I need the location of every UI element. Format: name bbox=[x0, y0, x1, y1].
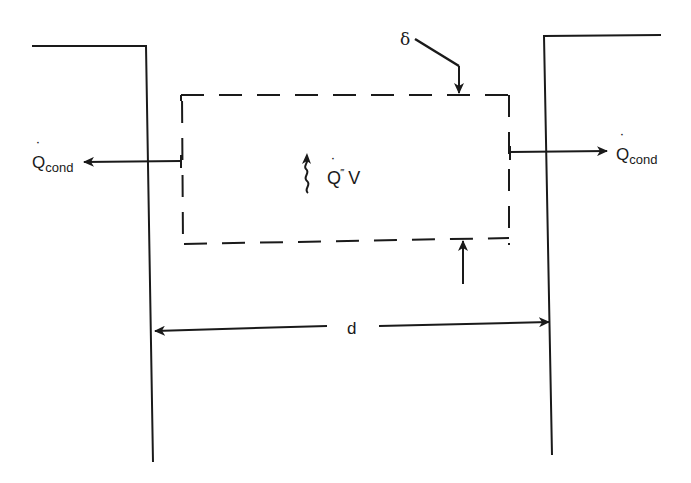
heat-conduction-diagram: Qcond ˙ Qcond ˙ δ Q‴V ˙ d bbox=[0, 0, 691, 483]
width-label: d bbox=[347, 319, 356, 338]
q-cond-left-dot: ˙ bbox=[36, 140, 41, 157]
right-wall bbox=[544, 35, 661, 455]
right-conduction-arrow bbox=[510, 146, 607, 160]
control-volume bbox=[181, 95, 509, 245]
left-wall bbox=[32, 46, 153, 462]
wavy-arrow-icon bbox=[302, 153, 311, 193]
left-conduction-arrow bbox=[84, 155, 181, 168]
delta-label: δ bbox=[400, 29, 410, 49]
q-cond-right-dot: ˙ bbox=[620, 132, 625, 149]
delta-leader-arrow bbox=[415, 39, 459, 93]
generation-dot: ˙ bbox=[331, 156, 336, 173]
